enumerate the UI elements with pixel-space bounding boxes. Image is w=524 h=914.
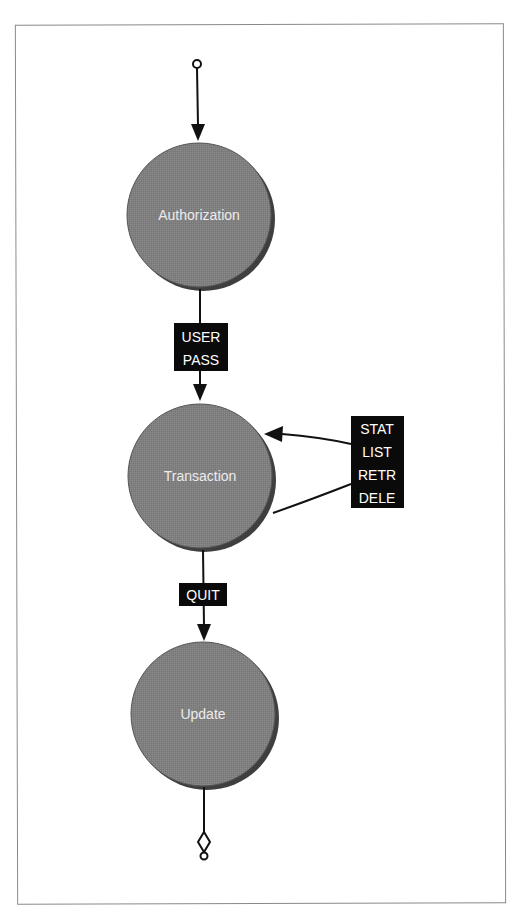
edge-label-quit: QUIT: [186, 587, 220, 603]
arrowhead-icon: [197, 624, 211, 641]
edge-transaction-to-update: QUIT: [179, 550, 227, 641]
arrowhead-icon: [264, 426, 283, 442]
start-marker: [193, 60, 201, 68]
edge-transaction-self-loop: STAT LIST RETR DELE: [264, 416, 404, 513]
state-transaction[interactable]: Transaction: [128, 404, 276, 552]
start-circle-icon: [193, 60, 201, 68]
state-label: Transaction: [164, 468, 237, 484]
end-circle-icon: [201, 853, 208, 860]
state-label: Update: [180, 706, 225, 722]
edge-label-stat: STAT: [360, 421, 394, 437]
edge-label-user: USER: [182, 329, 221, 345]
edge-authorization-to-transaction: USER PASS: [174, 289, 228, 401]
edge-label-dele: DELE: [359, 490, 396, 506]
end-diamond-icon: [198, 832, 210, 852]
state-authorization[interactable]: Authorization: [127, 143, 275, 291]
edge-label-pass: PASS: [183, 352, 219, 368]
arrowhead-icon: [191, 124, 205, 141]
state-diagram: Authorization USER PASS Transaction STAT…: [0, 0, 524, 914]
edge-label-retr: RETR: [358, 467, 396, 483]
state-update[interactable]: Update: [131, 642, 279, 790]
edge-start-to-authorization: [191, 68, 205, 141]
edge-update-to-end: [198, 787, 210, 860]
edge-label-list: LIST: [362, 444, 392, 460]
arrowhead-icon: [193, 384, 207, 401]
state-label: Authorization: [158, 207, 240, 223]
